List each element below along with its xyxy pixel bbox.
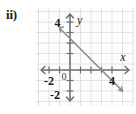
y-axis-label: y — [76, 13, 83, 27]
y-tick-label-neg2: -2 — [50, 88, 60, 102]
x-axis-label: x — [119, 50, 126, 64]
item-label: ii) — [6, 8, 17, 21]
figure-container: ii) — [0, 0, 136, 114]
origin-label: 0 — [62, 71, 67, 82]
x-tick-label-4: 4 — [109, 74, 115, 88]
x-tick-label-neg2: -2 — [44, 74, 54, 88]
coordinate-graph: 4 -2 -2 4 0 y x — [36, 8, 134, 106]
y-tick-label-4: 4 — [55, 16, 61, 30]
graph-svg: 4 -2 -2 4 0 y x — [36, 8, 134, 106]
